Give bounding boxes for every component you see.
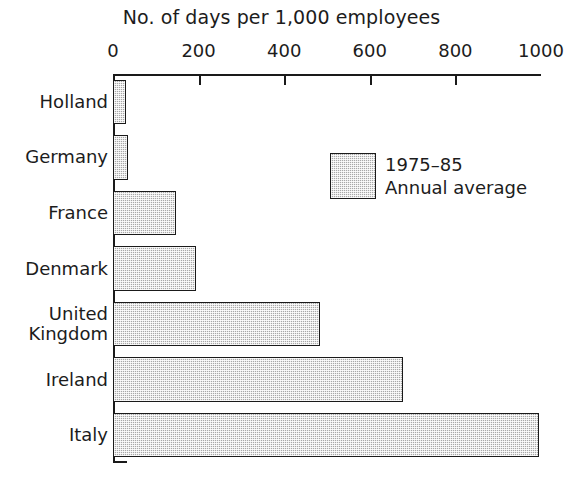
bar-united-kingdom bbox=[113, 302, 320, 346]
bar-germany bbox=[113, 135, 128, 179]
legend-label-period: 1975–85 bbox=[385, 153, 527, 176]
x-tick-mark-800 bbox=[455, 74, 457, 85]
x-tick-label-0: 0 bbox=[107, 40, 118, 61]
x-tick-label-800: 800 bbox=[438, 40, 472, 61]
x-tick-mark-600 bbox=[370, 74, 372, 85]
bar-holland bbox=[113, 80, 126, 124]
x-tick-mark-400 bbox=[284, 74, 286, 85]
chart-title: No. of days per 1,000 employees bbox=[0, 6, 563, 28]
category-label-ireland: Ireland bbox=[0, 370, 108, 390]
bar-ireland bbox=[113, 357, 403, 401]
x-tick-mark-200 bbox=[199, 74, 201, 85]
category-label-italy: Italy bbox=[0, 425, 108, 445]
x-tick-label-600: 600 bbox=[353, 40, 387, 61]
x-tick-label-400: 400 bbox=[267, 40, 301, 61]
legend: 1975–85 Annual average bbox=[330, 153, 527, 199]
category-label-france: France bbox=[0, 203, 108, 223]
y-axis-category-labels: HollandGermanyFranceDenmarkUnited Kingdo… bbox=[0, 74, 108, 463]
category-label-united-kingdom: United Kingdom bbox=[0, 304, 108, 344]
x-tick-label-200: 200 bbox=[181, 40, 215, 61]
bar-italy bbox=[113, 413, 539, 457]
legend-label-measure: Annual average bbox=[385, 176, 527, 199]
x-axis-tick-labels: 02004006008001000 bbox=[0, 40, 563, 64]
category-label-denmark: Denmark bbox=[0, 259, 108, 279]
x-axis-line bbox=[113, 74, 541, 76]
category-label-holland: Holland bbox=[0, 92, 108, 112]
bar-france bbox=[113, 191, 176, 235]
category-label-germany: Germany bbox=[0, 147, 108, 167]
x-tick-label-1000: 1000 bbox=[518, 40, 564, 61]
bar-denmark bbox=[113, 246, 196, 290]
legend-text: 1975–85 Annual average bbox=[385, 153, 527, 199]
axis-bottom-cap bbox=[113, 461, 127, 463]
plot-area bbox=[113, 74, 541, 463]
legend-swatch-1975-85 bbox=[330, 153, 376, 199]
